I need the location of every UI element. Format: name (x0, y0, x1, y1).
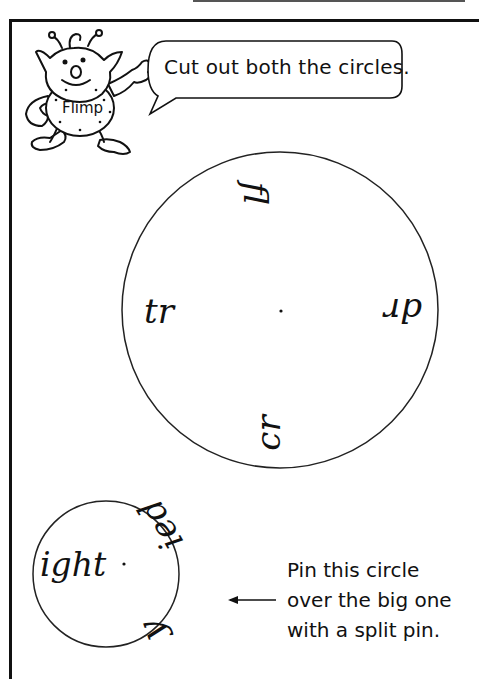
big-circle-center-dot (279, 309, 282, 312)
small-circle-label-left: ight (40, 548, 106, 581)
speech-bubble-text: Cut out both the circles. (164, 55, 410, 79)
big-circle-label-left: tr (144, 294, 174, 328)
instruction-line: Pin this circle (287, 555, 452, 585)
instruction-line: with a split pin. (287, 615, 452, 645)
big-circle-label-top: fl (239, 182, 273, 205)
big-circle-label-bottom: cr (251, 415, 285, 450)
flimp-character-icon (26, 30, 156, 154)
big-circle-label-right: dr (384, 294, 422, 328)
small-circle-center-dot (122, 562, 125, 565)
arrow-left-icon (228, 596, 276, 604)
flimp-name-label: Flimp (62, 99, 103, 117)
pin-instruction: Pin this circle over the big one with a … (287, 555, 452, 645)
instruction-line: over the big one (287, 585, 452, 615)
